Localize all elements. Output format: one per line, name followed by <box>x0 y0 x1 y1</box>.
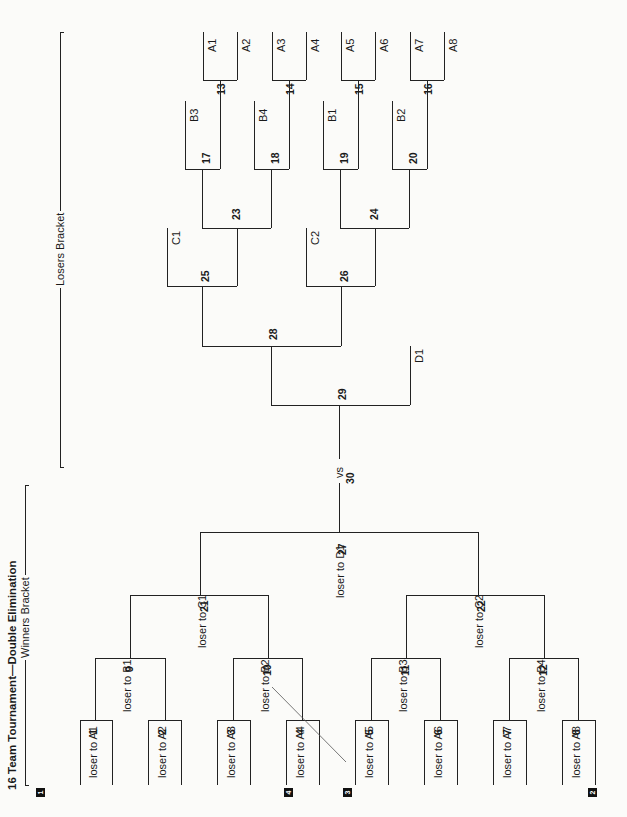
game-number: 23 <box>230 208 242 220</box>
game-number: 30 <box>344 472 356 484</box>
game-number: 3 <box>225 729 237 735</box>
game-number: 20 <box>407 152 419 164</box>
game-number: 15 <box>353 83 365 95</box>
game-number: 25 <box>199 270 211 282</box>
badge-3: 3 <box>343 788 352 797</box>
game-number: 13 <box>215 83 227 95</box>
game-number: 14 <box>284 83 296 95</box>
game-number: 19 <box>338 152 350 164</box>
game-number: 6 <box>432 729 444 735</box>
game-number: 12 <box>537 664 549 676</box>
entrant: B4 <box>257 109 269 122</box>
entrant: B3 <box>188 109 200 122</box>
game-number: 28 <box>267 328 279 340</box>
badge-4: 4 <box>284 788 293 797</box>
entrant-bottom: A4 <box>309 39 321 52</box>
entrant-bottom: A6 <box>378 39 390 52</box>
game-number: 22 <box>475 600 487 612</box>
pencil-mark <box>270 685 350 765</box>
game-number: 2 <box>156 729 168 735</box>
entrant-bottom: A8 <box>447 39 459 52</box>
page-title: 16 Team Tournament—Double Elimination <box>6 560 18 790</box>
badge-2: 2 <box>588 788 597 797</box>
game-number: 1 <box>87 729 99 735</box>
game-number: 26 <box>338 270 350 282</box>
game-number: 29 <box>336 388 348 400</box>
winners-bracket-label: Winners Bracket <box>19 575 31 660</box>
entrant: C1 <box>170 231 182 245</box>
game-number: 11 <box>399 665 411 676</box>
game-number: 8 <box>570 729 582 735</box>
entrant-top: A5 <box>344 39 356 52</box>
game-number: 24 <box>368 208 380 220</box>
entrant-top: A7 <box>413 39 425 52</box>
game-number: 16 <box>422 83 434 95</box>
game-number: 9 <box>123 666 135 672</box>
game-number: 27 <box>336 543 348 555</box>
entrant: D1 <box>413 349 425 363</box>
entrant-top: A3 <box>275 39 287 52</box>
entrant: B1 <box>326 109 338 122</box>
game-number: 17 <box>200 152 212 164</box>
entrant: B2 <box>395 109 407 122</box>
losers-bracket-label: Losers Bracket <box>54 211 66 288</box>
badge-1: 1 <box>36 788 45 797</box>
game-number: 10 <box>261 664 273 676</box>
entrant-top: A1 <box>206 39 218 52</box>
game-number: 21 <box>198 600 210 612</box>
entrant: C2 <box>309 231 321 245</box>
game-number: 7 <box>501 729 513 735</box>
game-number: 18 <box>269 152 281 164</box>
game-number: 5 <box>363 729 375 735</box>
entrant-bottom: A2 <box>240 39 252 52</box>
